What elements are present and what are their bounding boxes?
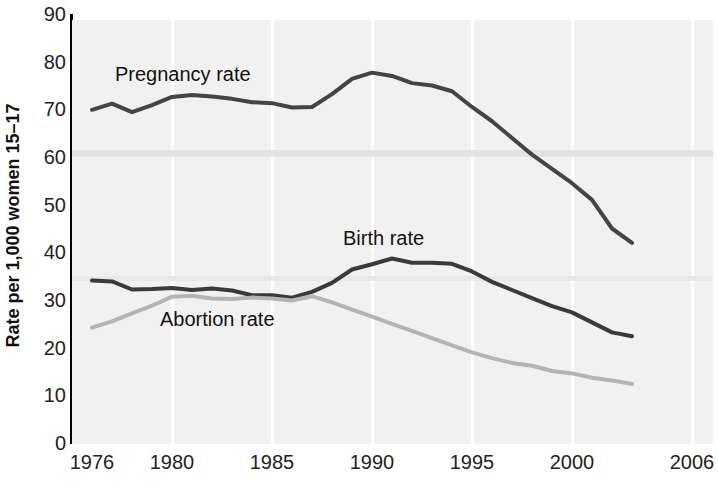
y-tick-label-80: 80 [22,52,66,72]
series-label-abortion-rate: Abortion rate [160,309,275,329]
line-pregnancy-rate [92,73,632,243]
x-tick-label-2000: 2000 [537,452,607,472]
x-tick-label-1976: 1976 [57,452,127,472]
y-tick-label-40: 40 [22,242,66,262]
y-tick-label-0: 0 [22,433,66,453]
series-label-birth-rate: Birth rate [343,228,424,248]
y-tick-label-30: 30 [22,290,66,310]
y-tick-label-60: 60 [22,147,66,167]
series-label-pregnancy-rate: Pregnancy rate [115,64,251,84]
x-tick-label-2006: 2006 [657,452,718,472]
y-tick-label-50: 50 [22,195,66,215]
x-tick-label-1980: 1980 [137,452,207,472]
y-tick-label-70: 70 [22,99,66,119]
x-tick-label-1990: 1990 [337,452,407,472]
y-tick-label-10: 10 [22,385,66,405]
y-tick-label-90: 90 [22,4,66,24]
y-tick-label-20: 20 [22,338,66,358]
x-tick-label-1995: 1995 [437,452,507,472]
y-axis-tick-labels: 0102030405060708090 [20,0,66,460]
x-tick-label-1985: 1985 [237,452,307,472]
